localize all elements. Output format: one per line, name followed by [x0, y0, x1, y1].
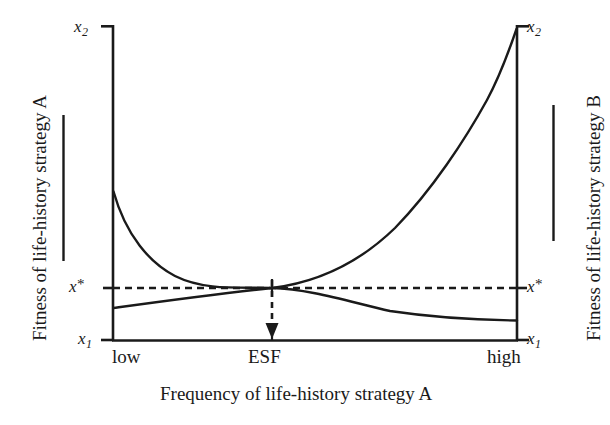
- left-axis-label-xstar: x*: [69, 277, 85, 295]
- curve-fitness-strategy-b: [114, 29, 517, 308]
- left-axis-label-x2: x2: [74, 18, 88, 38]
- x-tick-label-low: low: [112, 347, 141, 366]
- right-axis-label-x1: x1: [527, 330, 541, 350]
- right-axis-label-x2: x2: [527, 18, 541, 38]
- right-axis-label-xstar: x*: [527, 277, 543, 295]
- x-tick-label-esf: ESF: [248, 347, 281, 366]
- x-tick-label-high: high: [487, 347, 521, 366]
- equilibrium-arrow-head: [266, 323, 279, 339]
- right-y-axis-title: Fitness of life-history strategy B: [584, 95, 603, 341]
- left-y-axis-title: Fitness of life-history strategy A: [30, 95, 49, 341]
- figure-root: x2 x* x1 x2 x* x1 low ESF high Frequency…: [0, 0, 610, 425]
- left-axis-label-x1: x1: [78, 330, 92, 350]
- curve-fitness-strategy-a: [114, 192, 518, 321]
- x-axis-title: Frequency of life-history strategy A: [160, 384, 432, 403]
